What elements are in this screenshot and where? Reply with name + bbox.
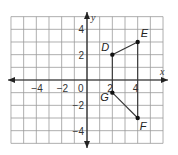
- point-E-marker: [135, 40, 139, 44]
- point-E-label: E: [141, 27, 149, 39]
- y-tick-label: −2: [73, 100, 85, 111]
- coordinate-plane: x y −4−202442−2−4 DEFG: [0, 0, 178, 155]
- x-axis-left-arrow-icon: [8, 77, 15, 83]
- point-D-marker: [110, 52, 114, 56]
- y-tick-label: 2: [78, 50, 84, 61]
- y-axis-down-arrow-icon: [84, 141, 90, 148]
- x-tick-label: 0: [78, 83, 84, 94]
- point-D-label: D: [101, 41, 109, 53]
- y-tick-label: 4: [78, 24, 84, 35]
- y-axis-label: y: [90, 12, 96, 23]
- x-axis-label: x: [159, 66, 165, 77]
- x-tick-label: −2: [57, 83, 69, 94]
- y-tick-label: −4: [73, 126, 85, 137]
- point-F-label: F: [140, 120, 148, 132]
- x-tick-label: −4: [31, 83, 43, 94]
- x-axis-right-arrow-icon: [161, 77, 168, 83]
- y-axis-up-arrow-icon: [84, 12, 90, 19]
- point-G-label: G: [100, 91, 109, 103]
- point-G-marker: [110, 90, 114, 94]
